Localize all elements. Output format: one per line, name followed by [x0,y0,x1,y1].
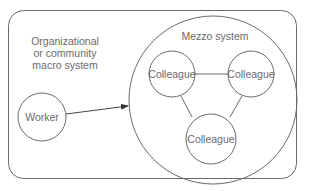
macro-system-label-line2: or community [33,47,97,59]
worker-node: Worker [18,93,66,141]
ecosystem-diagram: Organizational or community macro system… [0,0,309,191]
colleague-node-bottom: Colleague [186,114,236,164]
colleague-label: Colleague [227,68,274,80]
colleague-node-left: Colleague [148,51,195,97]
connector-left-bottom [181,96,192,117]
colleague-label: Colleague [187,133,234,145]
macro-system-label-line1: Organizational [31,35,99,47]
colleague-label: Colleague [148,68,195,80]
macro-system-label-line3: macro system [32,59,98,71]
worker-label: Worker [25,111,59,123]
mezzo-system-label: Mezzo system [181,30,248,42]
worker-to-mezzo-arrow [66,106,128,114]
colleague-node-right: Colleague [227,51,274,97]
connector-right-bottom [230,96,242,117]
